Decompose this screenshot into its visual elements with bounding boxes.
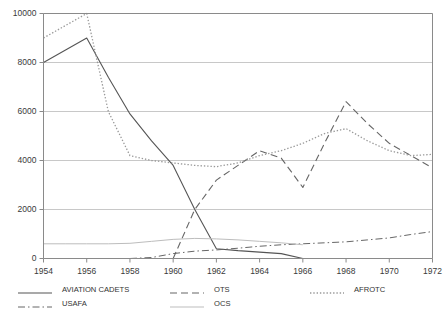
x-axis-tick-label: 1960 bbox=[153, 267, 193, 276]
series-line-afrotc bbox=[44, 14, 433, 167]
x-axis-tick-label: 1954 bbox=[24, 267, 64, 276]
legend-swatch-solid bbox=[18, 289, 52, 297]
legend-label: USAFA bbox=[62, 300, 87, 308]
series-group bbox=[44, 14, 433, 259]
axis-frame bbox=[44, 14, 433, 259]
x-axis-tick-label: 1968 bbox=[326, 267, 366, 276]
x-axis-tick-label: 1972 bbox=[413, 267, 447, 276]
gridlines bbox=[44, 14, 433, 259]
y-axis-tick-label: 8000 bbox=[18, 58, 37, 67]
series-line-ots bbox=[173, 102, 432, 259]
y-tick-marks bbox=[40, 14, 44, 259]
legend-swatch-solid-light bbox=[170, 303, 204, 311]
legend-swatch-dotted bbox=[310, 289, 344, 297]
series-line-aviation-cadets bbox=[44, 38, 303, 259]
x-axis-tick-label: 1958 bbox=[110, 267, 150, 276]
legend-swatch-dash-dot bbox=[18, 303, 52, 311]
legend-label: AVIATION CADETS bbox=[62, 286, 129, 294]
x-axis-tick-label: 1956 bbox=[67, 267, 107, 276]
legend-label: AFROTC bbox=[354, 286, 385, 294]
legend-swatch-dashed bbox=[170, 289, 204, 297]
x-axis-tick-label: 1964 bbox=[240, 267, 280, 276]
series-line-ocs bbox=[44, 238, 303, 244]
y-axis-tick-label: 6000 bbox=[18, 107, 37, 116]
y-axis-tick-label: 2000 bbox=[18, 205, 37, 214]
y-axis-tick-label: 0 bbox=[32, 254, 37, 263]
x-tick-marks bbox=[44, 259, 433, 263]
x-axis-tick-label: 1966 bbox=[283, 267, 323, 276]
x-axis-tick-label: 1970 bbox=[369, 267, 409, 276]
line-chart: 0200040006000800010000 19541956195819601… bbox=[0, 0, 447, 315]
chart-legend: AVIATION CADETSUSAFAOTSOCSAFROTC bbox=[0, 284, 447, 315]
x-axis-tick-label: 1962 bbox=[196, 267, 236, 276]
y-axis-tick-label: 4000 bbox=[18, 156, 37, 165]
y-axis-tick-label: 10000 bbox=[13, 9, 37, 18]
legend-label: OTS bbox=[214, 286, 230, 294]
legend-label: OCS bbox=[214, 300, 230, 308]
